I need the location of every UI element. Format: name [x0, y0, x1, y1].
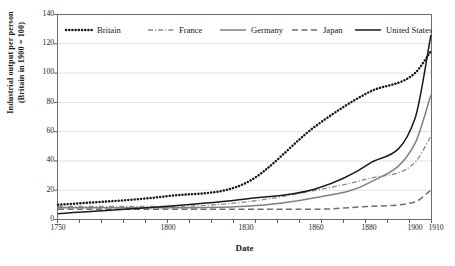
- x-tick-label: 1750: [43, 224, 73, 232]
- y-tick-label: 100: [30, 68, 54, 76]
- x-axis-title: Date: [57, 243, 432, 253]
- legend-label-france: France: [179, 25, 203, 35]
- series-line-france: [58, 136, 431, 206]
- y-axis-title-line2: (Britain in 1900 = 100): [16, 0, 27, 143]
- series-line-germany: [58, 95, 431, 208]
- axis-ticks: [54, 15, 432, 224]
- y-tick-label: 20: [30, 186, 54, 194]
- series-lines: [58, 35, 431, 214]
- x-tick-label: 1910: [421, 224, 451, 232]
- y-tick-label: 0: [30, 215, 54, 223]
- y-tick-label: 40: [30, 156, 54, 164]
- x-tick-label: 1830: [231, 224, 261, 232]
- series-line-united-states: [58, 35, 431, 214]
- chart-figure: Industrial output per person (Britain in…: [0, 0, 455, 266]
- x-tick-label: 1860: [301, 224, 331, 232]
- y-tick-label: 60: [30, 127, 54, 135]
- plot-frame: [58, 15, 432, 220]
- y-axis-title-line1: Industrial output per person: [6, 0, 17, 143]
- y-axis-title: Industrial output per person (Britain in…: [6, 0, 27, 143]
- legend-label-britain: Britain: [97, 25, 122, 35]
- series-line-britain: [58, 51, 431, 205]
- x-tick-label: 1880: [354, 224, 384, 232]
- x-tick-label: 1800: [153, 224, 183, 232]
- gridlines: [58, 44, 432, 190]
- legend-label-germany: Germany: [251, 25, 284, 35]
- y-tick-label: 140: [30, 10, 54, 18]
- chart-legend: BritainFranceGermanyJapanUnited States: [66, 25, 433, 35]
- y-tick-label: 120: [30, 39, 54, 47]
- legend-label-united-states: United States: [386, 25, 433, 35]
- y-tick-label: 80: [30, 98, 54, 106]
- legend-label-japan: Japan: [323, 25, 343, 35]
